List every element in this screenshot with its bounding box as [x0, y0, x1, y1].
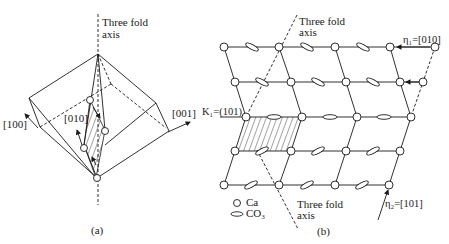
three-fold-axis-b-top	[246, 15, 297, 117]
legend-co3-symbol	[231, 212, 243, 216]
axis-label-a-line1: Three fold	[102, 17, 148, 28]
axis-label-a-line2: axis	[102, 29, 120, 40]
axis-label-b-top-line2: axis	[299, 27, 317, 38]
k1-label: K₁=(101)	[202, 106, 242, 117]
caption-a: (a)	[91, 225, 103, 236]
direction-100-label: [100]	[3, 119, 27, 130]
legend-co3-label: CO₃	[246, 208, 265, 219]
legend-symbols	[231, 200, 243, 217]
caption-b: (b)	[317, 226, 330, 237]
legend-ca-symbol	[234, 200, 241, 207]
direction-001-label: [001]	[172, 108, 196, 119]
eta2-label: η₂=[101]	[385, 198, 423, 209]
axis-label-b-bottom-line2: axis	[297, 210, 315, 221]
eta1-label: η₁=[010]	[403, 34, 441, 45]
direction-010-label: [010]	[64, 113, 88, 124]
eta-arrows	[378, 47, 430, 220]
co3-groups	[244, 42, 391, 191]
twin-region-hatch-b	[235, 117, 302, 151]
